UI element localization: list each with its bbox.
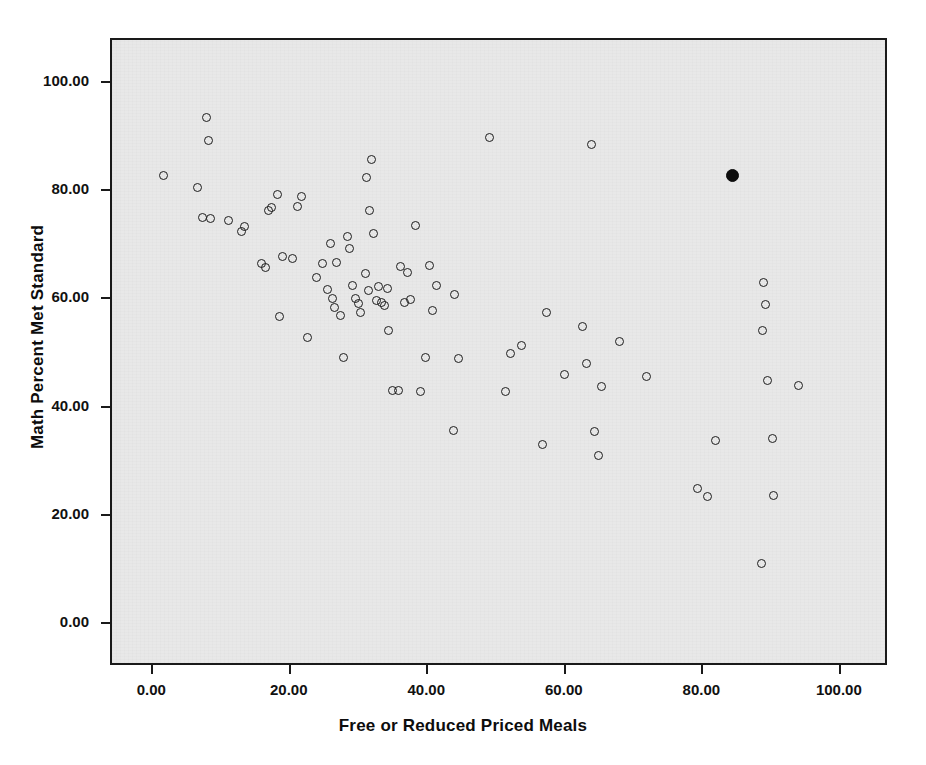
y-axis-tick-mark [101,622,110,624]
data-point [794,381,803,390]
data-point [416,387,425,396]
x-axis-tick-label: 60.00 [519,681,609,698]
x-axis-tick-label: 80.00 [656,681,746,698]
data-point [703,492,712,501]
y-axis-tick-mark [101,406,110,408]
y-axis-tick-label: 100.00 [43,72,89,89]
data-point [560,370,569,379]
y-axis-tick-label: 40.00 [51,397,89,414]
data-point [642,372,651,381]
data-point [240,222,249,231]
y-axis-title: Math Percent Met Standard [28,37,48,637]
data-point [428,306,437,315]
y-axis-tick-label: 0.00 [60,613,89,630]
data-point [394,386,403,395]
data-point [594,451,603,460]
data-point [380,301,389,310]
data-point [367,155,376,164]
data-point [318,259,327,268]
scatter-plot-figure: 0.0020.0040.0060.0080.00100.00 0.0020.00… [0,0,926,765]
data-point [364,286,373,295]
data-point [275,312,284,321]
data-point [288,254,297,263]
data-point [421,353,430,362]
data-point [332,258,341,267]
data-point [454,354,463,363]
data-point [193,183,202,192]
plot-area [110,38,887,665]
data-point [517,341,526,350]
data-point [354,299,363,308]
data-point [582,359,591,368]
y-axis-tick-label: 20.00 [51,505,89,522]
data-point [303,333,312,342]
data-point [336,311,345,320]
data-point [711,436,720,445]
data-point [159,171,168,180]
data-point [761,300,770,309]
data-point [449,426,458,435]
data-point [312,273,321,282]
data-point [326,239,335,248]
data-point [406,295,415,304]
y-axis-tick-mark [101,189,110,191]
data-point [267,203,276,212]
data-point [501,387,510,396]
data-point [369,229,378,238]
data-point [278,252,287,261]
data-point [383,284,392,293]
data-point [403,268,412,277]
x-axis-title: Free or Reduced Priced Meals [0,716,926,736]
data-point [206,214,215,223]
data-point-highlighted [726,169,739,182]
data-point [769,491,778,500]
data-point [297,192,306,201]
y-axis-tick-label: 60.00 [51,288,89,305]
data-point [542,308,551,317]
data-point [328,294,337,303]
data-point [432,281,441,290]
data-point [343,232,352,241]
data-point [293,202,302,211]
data-point [339,353,348,362]
data-point [273,190,282,199]
data-point [597,382,606,391]
data-point [763,376,772,385]
background-showthrough-text [112,40,885,663]
data-point [374,282,383,291]
x-axis-tick-mark [426,665,428,674]
data-point [345,244,354,253]
data-point [485,133,494,142]
y-axis-tick-label: 80.00 [51,180,89,197]
data-point [615,337,624,346]
x-axis-tick-label: 100.00 [794,681,884,698]
data-point [384,326,393,335]
x-axis-tick-mark [151,665,153,674]
paper-texture [112,40,885,663]
data-point [578,322,587,331]
data-point [348,281,357,290]
data-point [323,285,332,294]
data-point [204,136,213,145]
data-point [587,140,596,149]
data-point [361,269,370,278]
data-point [425,261,434,270]
y-axis-tick-mark [101,81,110,83]
data-point [538,440,547,449]
y-axis-tick-mark [101,297,110,299]
data-point [356,308,365,317]
data-point [411,221,420,230]
data-point [261,263,270,272]
data-point [693,484,702,493]
x-axis-tick-label: 0.00 [106,681,196,698]
x-axis-tick-mark [839,665,841,674]
y-axis-tick-mark [101,514,110,516]
x-axis-tick-label: 40.00 [381,681,471,698]
x-axis-tick-mark [289,665,291,674]
data-point [768,434,777,443]
data-point [757,559,766,568]
data-point [365,206,374,215]
x-axis-tick-label: 20.00 [244,681,334,698]
x-axis-tick-mark [701,665,703,674]
data-point [362,173,371,182]
